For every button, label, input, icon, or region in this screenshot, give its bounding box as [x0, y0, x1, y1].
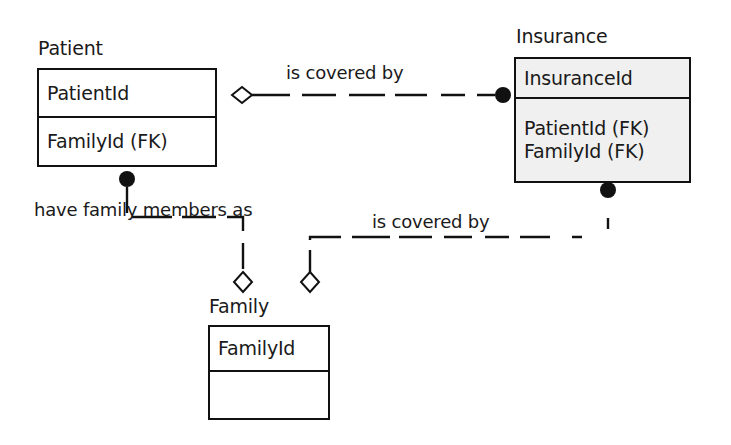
filled-circle-marker	[600, 182, 616, 198]
filled-circle-marker	[495, 87, 511, 103]
entity-box-insurance[interactable]: InsuranceId PatientId (FK) FamilyId (FK)	[514, 57, 691, 183]
attribute-family-id: FamilyId	[218, 337, 320, 360]
entity-compartment-primary: FamilyId	[210, 327, 328, 372]
entity-name-insurance: Insurance	[516, 26, 607, 47]
relationship-family-insurance[interactable]	[301, 182, 616, 292]
dashed-elbow-connector	[310, 198, 608, 272]
entity-compartment-attributes: PatientId (FK) FamilyId (FK)	[516, 99, 689, 181]
attribute-insurance-familyid-fk: FamilyId (FK)	[524, 140, 681, 163]
hollow-diamond-marker	[232, 87, 252, 103]
er-diagram-canvas: Insurance ---- --> Family ---- --> Insur…	[0, 0, 731, 445]
relationship-label-is-covered-by-bottom: is covered by	[372, 212, 489, 232]
filled-circle-marker	[119, 171, 135, 187]
entity-compartment-primary: InsuranceId	[516, 59, 689, 99]
entity-name-patient: Patient	[38, 38, 103, 59]
attribute-insurance-id: InsuranceId	[524, 67, 681, 90]
attribute-patient-familyid-fk: FamilyId (FK)	[47, 130, 207, 153]
entity-box-patient[interactable]: PatientId FamilyId (FK)	[37, 68, 217, 167]
relationship-label-is-covered-by-top: is covered by	[286, 63, 403, 83]
entity-box-family[interactable]: FamilyId	[208, 325, 330, 420]
hollow-diamond-marker	[234, 272, 252, 292]
relationship-patient-insurance[interactable]	[232, 87, 511, 103]
entity-compartment-attributes	[210, 372, 328, 418]
attribute-patient-id: PatientId	[47, 82, 207, 105]
entity-name-family: Family	[209, 296, 269, 317]
entity-compartment-attributes: FamilyId (FK)	[39, 118, 215, 165]
relationship-label-have-family-members-as: have family members as	[34, 200, 252, 220]
hollow-diamond-marker	[301, 272, 319, 292]
entity-compartment-primary: PatientId	[39, 70, 215, 118]
relationship-patient-family[interactable]	[119, 171, 252, 292]
attribute-insurance-patientid-fk: PatientId (FK)	[524, 117, 681, 140]
